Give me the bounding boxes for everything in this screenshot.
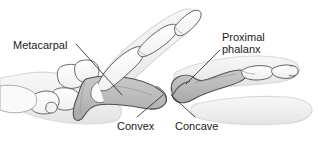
label-convex: Convex — [117, 120, 154, 132]
label-concave: Concave — [175, 120, 218, 132]
hand-skeleton-illustration — [0, 0, 318, 141]
label-metacarpal-text: Metacarpal — [13, 39, 67, 51]
label-proximal-phalanx-line1: Proximal — [222, 31, 265, 43]
distal-phalanx-tuft — [289, 66, 298, 76]
carpal-detail-pisiform — [46, 102, 57, 113]
label-convex-text: Convex — [117, 120, 154, 132]
label-concave-text: Concave — [175, 120, 218, 132]
label-proximal-phalanx-line2: phalanx — [222, 43, 265, 55]
extended-finger-bones-group — [242, 65, 299, 80]
anatomy-figure: Metacarpal Proximal phalanx Convex Conca… — [0, 0, 318, 141]
label-metacarpal: Metacarpal — [13, 39, 67, 51]
label-proximal-phalanx: Proximal phalanx — [222, 31, 265, 55]
